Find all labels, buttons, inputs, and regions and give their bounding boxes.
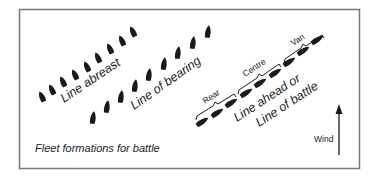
diagram-caption: Fleet formations for battle: [35, 142, 160, 154]
wind-label: Wind: [314, 134, 334, 144]
fleet-formations-diagram: Line abreast Line of bearing Rear Centre…: [0, 0, 368, 177]
